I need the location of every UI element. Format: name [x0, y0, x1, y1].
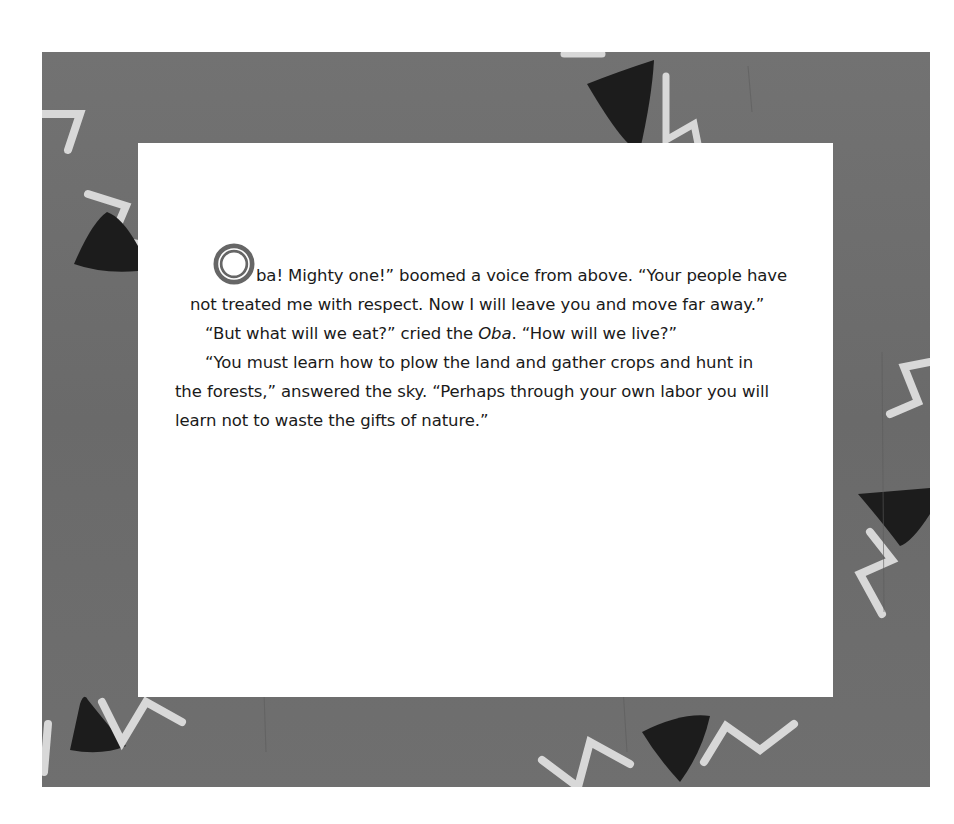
triangle-icon [74, 212, 138, 272]
paragraph-2-text-start: “But what will we eat?” cried the [205, 324, 478, 343]
paragraph-1-line-1: ba! Mighty one!” boomed a voice from abo… [256, 266, 787, 285]
paragraph-3-line-3: learn not to waste the gifts of nature.” [175, 406, 488, 435]
paragraph-3: “You must learn how to plow the land and… [190, 348, 810, 435]
dropcap-o-icon [213, 243, 255, 285]
triangle-icon [642, 715, 710, 782]
paragraph-1-line-2: not treated me with respect. Now I will … [190, 295, 764, 314]
oba-emphasis: Oba [478, 324, 511, 343]
paragraph-3-line-1: “You must learn how to plow the land and… [205, 353, 753, 372]
paragraph-2: “But what will we eat?” cried the Oba. “… [190, 319, 810, 348]
zigzag-icon [42, 114, 138, 244]
triangle-icon [858, 488, 930, 546]
triangle-icon [587, 60, 654, 150]
zigzag-icon [860, 362, 930, 614]
paragraph-3-line-2: the forests,” answered the sky. “Perhaps… [175, 377, 769, 406]
story-page: ba! Mighty one!” boomed a voice from abo… [138, 143, 833, 697]
paragraph-1: ba! Mighty one!” boomed a voice from abo… [190, 257, 810, 319]
story-text: ba! Mighty one!” boomed a voice from abo… [190, 257, 810, 435]
paragraph-2-text-end: . “How will we live?” [512, 324, 677, 343]
